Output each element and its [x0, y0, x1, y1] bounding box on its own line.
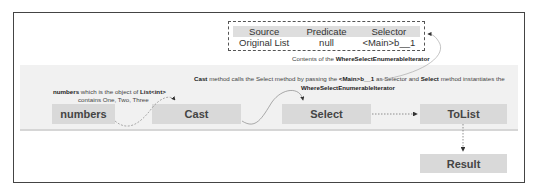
- node-result: Result: [420, 154, 507, 173]
- table-caption: Contents of the WhereSelectEnumerableIte…: [292, 55, 430, 62]
- node-cast: Cast: [152, 104, 241, 124]
- cast-annotation-line2: WhereSelectEnumerableIterator: [301, 84, 395, 91]
- cast-note-selector: <Main>b__1: [339, 75, 374, 82]
- node-cast-label: Cast: [185, 108, 209, 120]
- node-tolist: ToList: [420, 104, 507, 124]
- node-numbers: numbers: [52, 104, 115, 124]
- node-tolist-label: ToList: [447, 108, 479, 120]
- cast-note-iterator: WhereSelectEnumerableIterator: [301, 84, 395, 91]
- table-values-row: Original List null <Main>b__1: [233, 37, 420, 48]
- numbers-note-type: List<int>: [140, 88, 166, 95]
- numbers-note-text: which is the object of: [79, 88, 140, 95]
- numbers-annotation-line2: contains One, Two, Three: [78, 96, 149, 103]
- cast-annotation-line1: Cast method calls the Select method by p…: [194, 75, 505, 82]
- header-predicate: Predicate: [295, 26, 357, 37]
- cast-note-text3: method instantiates the: [439, 75, 505, 82]
- numbers-note-contents: contains One, Two, Three: [78, 96, 149, 103]
- node-result-label: Result: [447, 158, 481, 170]
- node-select-label: Select: [310, 108, 342, 120]
- table-header-row: Source Predicate Selector: [233, 26, 420, 37]
- cast-note-text2: as Selector and: [374, 75, 420, 82]
- caption-prefix: Contents of the: [292, 55, 336, 62]
- numbers-annotation-line1: numbers which is the object of List<int>: [53, 88, 166, 95]
- cast-note-text1: method calls the Select method by passin…: [207, 75, 338, 82]
- numbers-note-bold: numbers: [53, 88, 79, 95]
- value-selector: <Main>b__1: [358, 37, 420, 48]
- node-numbers-label: numbers: [60, 108, 106, 120]
- header-source: Source: [233, 26, 295, 37]
- header-selector: Selector: [358, 26, 420, 37]
- caption-bold: WhereSelectEnumerableIterator: [336, 55, 430, 62]
- cast-note-bold: Cast: [194, 75, 207, 82]
- iterator-contents-table: Source Predicate Selector Original List …: [228, 21, 425, 51]
- value-predicate: null: [295, 37, 357, 48]
- cast-note-select: Select: [421, 75, 439, 82]
- node-select: Select: [282, 104, 371, 124]
- value-source: Original List: [233, 37, 295, 48]
